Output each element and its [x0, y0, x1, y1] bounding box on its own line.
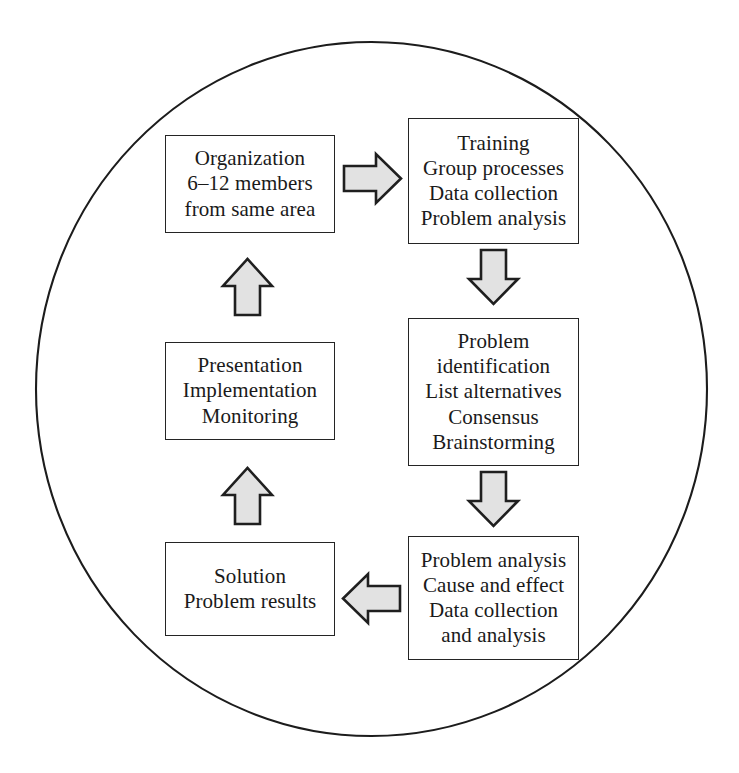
node-training-line-2: Group processes [423, 156, 564, 181]
node-problem-identification-line-3: List alternatives [425, 379, 561, 404]
node-presentation-line-2: Implementation [183, 378, 317, 403]
node-problem-analysis-line-1: Problem analysis [421, 548, 567, 573]
node-solution-line-1: Solution [214, 564, 286, 589]
node-organization-line-1: Organization [195, 146, 305, 171]
node-problem-identification-line-1: Problem [458, 329, 530, 354]
node-training-line-1: Training [457, 131, 529, 156]
node-organization[interactable]: Organization 6–12 members from same area [165, 135, 335, 233]
node-solution-line-2: Problem results [184, 589, 317, 614]
node-presentation-line-3: Monitoring [202, 404, 299, 429]
arrow-problem-analysis-to-solution [343, 574, 400, 623]
node-problem-analysis-line-2: Cause and effect [423, 573, 564, 598]
arrow-training-to-problem-identification [469, 250, 518, 304]
node-training-line-3: Data collection [429, 181, 558, 206]
node-solution[interactable]: Solution Problem results [165, 542, 335, 636]
arrow-organization-to-training [344, 154, 401, 203]
node-presentation-line-1: Presentation [197, 353, 302, 378]
node-problem-analysis[interactable]: Problem analysis Cause and effect Data c… [408, 536, 579, 660]
node-problem-analysis-line-3: Data collection [429, 598, 558, 623]
node-presentation[interactable]: Presentation Implementation Monitoring [165, 342, 335, 440]
enclosing-circle [36, 42, 707, 736]
node-problem-identification-line-4: Consensus [448, 405, 539, 430]
node-problem-analysis-line-4: and analysis [441, 623, 545, 648]
node-problem-identification[interactable]: Problem identification List alternatives… [408, 318, 579, 466]
diagram-canvas: Quality circle problem-solving cycle [0, 0, 739, 773]
arrow-presentation-to-organization [223, 259, 272, 315]
node-organization-line-2: 6–12 members [187, 171, 312, 196]
node-training[interactable]: Training Group processes Data collection… [408, 118, 579, 244]
node-training-line-4: Problem analysis [421, 206, 567, 231]
node-problem-identification-line-5: Brainstorming [432, 430, 555, 455]
arrow-solution-to-presentation [223, 468, 272, 524]
diagram-graphics-layer [0, 0, 739, 773]
node-organization-line-3: from same area [185, 197, 316, 222]
node-problem-identification-line-2: identification [437, 354, 550, 379]
arrow-problem-identification-to-problem-analysis [469, 472, 518, 526]
